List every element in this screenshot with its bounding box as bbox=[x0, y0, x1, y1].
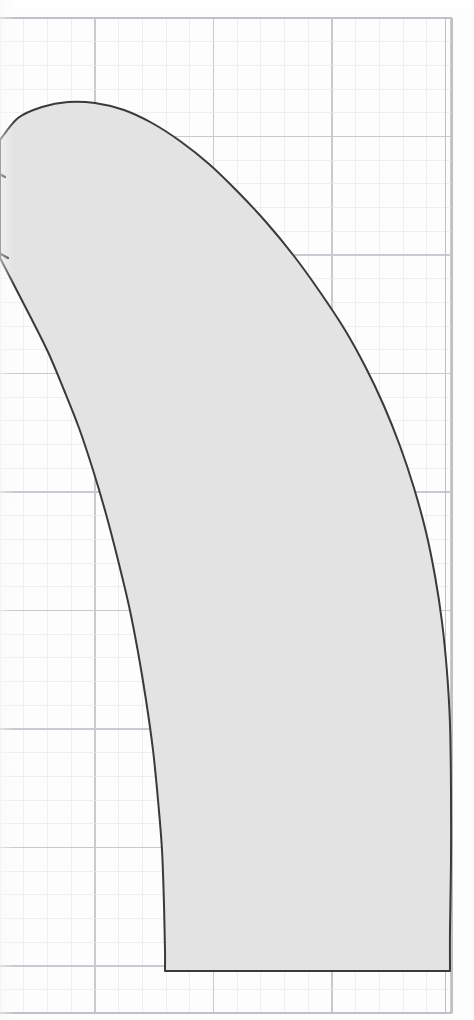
graph-paper-page bbox=[0, 0, 474, 1020]
shaded-curve-region bbox=[0, 0, 474, 1020]
region-fill bbox=[0, 102, 451, 971]
